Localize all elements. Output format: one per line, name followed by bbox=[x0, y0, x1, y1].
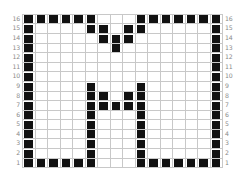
grid-cell-14-11[interactable] bbox=[186, 63, 199, 73]
grid-cell-11-8[interactable] bbox=[148, 92, 161, 102]
grid-cell-6-1[interactable] bbox=[86, 159, 99, 169]
grid-cell-6-5[interactable] bbox=[86, 120, 99, 130]
grid-cell-9-5[interactable] bbox=[123, 120, 136, 130]
grid-cell-14-15[interactable] bbox=[186, 24, 199, 34]
grid-cell-14-16[interactable] bbox=[186, 15, 199, 25]
grid-cell-13-3[interactable] bbox=[173, 139, 186, 149]
grid-cell-5-10[interactable] bbox=[73, 72, 86, 82]
grid-cell-9-14[interactable] bbox=[123, 34, 136, 44]
grid-cell-5-2[interactable] bbox=[73, 149, 86, 159]
grid-cell-15-7[interactable] bbox=[198, 101, 211, 111]
grid-cell-9-4[interactable] bbox=[123, 130, 136, 140]
grid-cell-15-5[interactable] bbox=[198, 120, 211, 130]
grid-cell-8-16[interactable] bbox=[111, 15, 124, 25]
grid-cell-16-3[interactable] bbox=[211, 139, 224, 149]
grid-cell-2-1[interactable] bbox=[36, 159, 49, 169]
grid-cell-1-11[interactable] bbox=[23, 63, 36, 73]
grid-cell-12-11[interactable] bbox=[161, 63, 174, 73]
grid-cell-13-9[interactable] bbox=[173, 82, 186, 92]
grid-cell-5-13[interactable] bbox=[73, 44, 86, 54]
grid-cell-8-3[interactable] bbox=[111, 139, 124, 149]
grid-cell-3-11[interactable] bbox=[48, 63, 61, 73]
grid-cell-15-2[interactable] bbox=[198, 149, 211, 159]
grid-cell-1-14[interactable] bbox=[23, 34, 36, 44]
grid-cell-10-16[interactable] bbox=[136, 15, 149, 25]
grid-cell-6-4[interactable] bbox=[86, 130, 99, 140]
grid-cell-6-13[interactable] bbox=[86, 44, 99, 54]
grid-cell-9-10[interactable] bbox=[123, 72, 136, 82]
grid-cell-9-9[interactable] bbox=[123, 82, 136, 92]
grid-cell-1-13[interactable] bbox=[23, 44, 36, 54]
grid-cell-6-8[interactable] bbox=[86, 92, 99, 102]
grid-cell-10-10[interactable] bbox=[136, 72, 149, 82]
grid-cell-7-8[interactable] bbox=[98, 92, 111, 102]
grid-cell-4-12[interactable] bbox=[61, 53, 74, 63]
grid-cell-9-15[interactable] bbox=[123, 24, 136, 34]
grid-cell-4-7[interactable] bbox=[61, 101, 74, 111]
grid-cell-5-8[interactable] bbox=[73, 92, 86, 102]
grid-cell-7-11[interactable] bbox=[98, 63, 111, 73]
grid-cell-16-5[interactable] bbox=[211, 120, 224, 130]
grid-cell-8-1[interactable] bbox=[111, 159, 124, 169]
grid-cell-7-14[interactable] bbox=[98, 34, 111, 44]
grid-cell-2-4[interactable] bbox=[36, 130, 49, 140]
grid-cell-8-10[interactable] bbox=[111, 72, 124, 82]
grid-cell-5-16[interactable] bbox=[73, 15, 86, 25]
grid-cell-1-10[interactable] bbox=[23, 72, 36, 82]
grid-cell-7-13[interactable] bbox=[98, 44, 111, 54]
grid-cell-12-12[interactable] bbox=[161, 53, 174, 63]
grid-cell-11-10[interactable] bbox=[148, 72, 161, 82]
grid-cell-4-3[interactable] bbox=[61, 139, 74, 149]
grid-cell-12-4[interactable] bbox=[161, 130, 174, 140]
grid-cell-2-13[interactable] bbox=[36, 44, 49, 54]
grid-cell-10-15[interactable] bbox=[136, 24, 149, 34]
grid-cell-8-15[interactable] bbox=[111, 24, 124, 34]
grid-cell-2-6[interactable] bbox=[36, 111, 49, 121]
grid-cell-4-8[interactable] bbox=[61, 92, 74, 102]
grid-cell-11-14[interactable] bbox=[148, 34, 161, 44]
grid-cell-6-15[interactable] bbox=[86, 24, 99, 34]
grid-cell-5-5[interactable] bbox=[73, 120, 86, 130]
grid-cell-1-1[interactable] bbox=[23, 159, 36, 169]
grid-cell-14-2[interactable] bbox=[186, 149, 199, 159]
grid-cell-15-6[interactable] bbox=[198, 111, 211, 121]
grid-cell-11-6[interactable] bbox=[148, 111, 161, 121]
grid-cell-4-11[interactable] bbox=[61, 63, 74, 73]
grid-cell-16-8[interactable] bbox=[211, 92, 224, 102]
grid-cell-9-16[interactable] bbox=[123, 15, 136, 25]
grid-cell-11-15[interactable] bbox=[148, 24, 161, 34]
grid-cell-11-13[interactable] bbox=[148, 44, 161, 54]
grid-cell-11-9[interactable] bbox=[148, 82, 161, 92]
grid-cell-3-2[interactable] bbox=[48, 149, 61, 159]
grid-cell-12-5[interactable] bbox=[161, 120, 174, 130]
grid-cell-11-11[interactable] bbox=[148, 63, 161, 73]
grid-cell-10-1[interactable] bbox=[136, 159, 149, 169]
grid-cell-7-1[interactable] bbox=[98, 159, 111, 169]
grid-cell-5-11[interactable] bbox=[73, 63, 86, 73]
grid-cell-3-7[interactable] bbox=[48, 101, 61, 111]
grid-cell-12-8[interactable] bbox=[161, 92, 174, 102]
grid-cell-1-7[interactable] bbox=[23, 101, 36, 111]
grid-cell-4-2[interactable] bbox=[61, 149, 74, 159]
grid-cell-10-13[interactable] bbox=[136, 44, 149, 54]
grid-cell-8-14[interactable] bbox=[111, 34, 124, 44]
grid-cell-8-5[interactable] bbox=[111, 120, 124, 130]
grid-cell-5-4[interactable] bbox=[73, 130, 86, 140]
grid-cell-9-2[interactable] bbox=[123, 149, 136, 159]
grid-cell-10-9[interactable] bbox=[136, 82, 149, 92]
grid-cell-2-12[interactable] bbox=[36, 53, 49, 63]
grid-cell-4-4[interactable] bbox=[61, 130, 74, 140]
grid-cell-13-12[interactable] bbox=[173, 53, 186, 63]
grid-cell-1-9[interactable] bbox=[23, 82, 36, 92]
grid-cell-14-9[interactable] bbox=[186, 82, 199, 92]
grid-cell-16-12[interactable] bbox=[211, 53, 224, 63]
grid-cell-16-14[interactable] bbox=[211, 34, 224, 44]
grid-cell-7-5[interactable] bbox=[98, 120, 111, 130]
grid-cell-3-15[interactable] bbox=[48, 24, 61, 34]
grid-cell-15-10[interactable] bbox=[198, 72, 211, 82]
grid-cell-12-15[interactable] bbox=[161, 24, 174, 34]
grid-cell-2-3[interactable] bbox=[36, 139, 49, 149]
grid-cell-4-15[interactable] bbox=[61, 24, 74, 34]
grid-cell-15-9[interactable] bbox=[198, 82, 211, 92]
grid-cell-2-16[interactable] bbox=[36, 15, 49, 25]
